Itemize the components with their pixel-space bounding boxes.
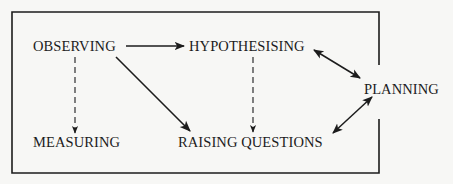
- node-observing: OBSERVING: [33, 39, 116, 54]
- edge-raising-questions-planning: [333, 97, 372, 133]
- node-measuring: MEASURING: [33, 135, 120, 150]
- node-raising-questions: RAISING QUESTIONS: [178, 135, 323, 150]
- edge-observing-raising-questions: [116, 57, 190, 131]
- edge-hypothesising-planning: [314, 50, 360, 78]
- node-hypothesising: HYPOTHESISING: [189, 39, 305, 54]
- node-planning: PLANNING: [364, 82, 439, 97]
